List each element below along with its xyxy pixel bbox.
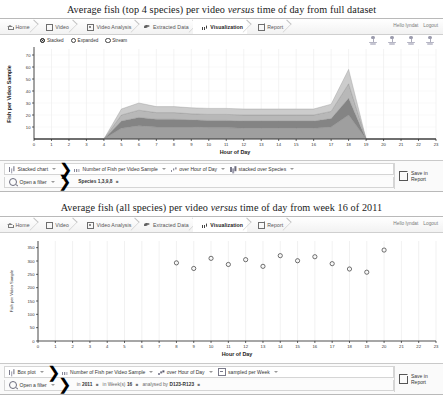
chart-area-2: 0501001502002503003500123456789101112131… <box>0 233 443 363</box>
svg-text:14: 14 <box>278 344 283 349</box>
tool-icon-2[interactable] <box>387 36 397 48</box>
nav-item-report[interactable]: Report <box>247 19 287 34</box>
chevron-down-icon <box>149 371 153 373</box>
control-row-filters-1: Open a filter ❯ Species 1,3,9,8 ■ <box>4 177 394 188</box>
bars-icon <box>62 369 68 375</box>
open-filter-button-2[interactable]: Open a filter <box>7 380 58 390</box>
bars-icon <box>9 369 15 375</box>
svg-text:13: 13 <box>261 344 266 349</box>
video-analysis-icon <box>87 222 94 229</box>
bar-chart-icon <box>202 222 208 228</box>
svg-text:17: 17 <box>330 344 335 349</box>
filter-chip-group-2: in 2011 ■ in Week(s) 16 ■ analysed by <box>71 380 207 390</box>
svg-text:23: 23 <box>434 142 439 147</box>
select-chart-type-1[interactable]: Stacked chart <box>7 164 59 174</box>
logout-link[interactable]: Logout <box>423 23 438 28</box>
nav2-item-home[interactable]: Home <box>4 217 34 232</box>
svg-text:20: 20 <box>381 142 386 147</box>
tool-icon-4[interactable] <box>425 36 435 48</box>
app-window-1: Home Video Video Analysis Extracted Data… <box>0 18 443 192</box>
svg-text:300: 300 <box>28 259 36 264</box>
svg-text:16: 16 <box>313 344 318 349</box>
svg-text:40: 40 <box>26 89 31 94</box>
select-measure-1[interactable]: Number of Fish per Video Sample <box>72 164 169 174</box>
radio-option-stream[interactable]: Stream <box>105 38 127 43</box>
select-value-groupby: over Hour of Day <box>179 166 217 172</box>
breadcrumb-nav-2: Home Video Video Analysis Extracted Data… <box>0 217 443 233</box>
nav2-item-report[interactable]: Report <box>247 217 287 232</box>
svg-text:200: 200 <box>28 285 36 290</box>
close-icon[interactable]: ■ <box>198 382 201 387</box>
chip-analysed-by[interactable]: analysed by D123-R123 ■ <box>142 382 200 387</box>
radio-icon-expanded <box>71 38 76 43</box>
tool-icon-1[interactable] <box>368 36 378 48</box>
tool-icon-3[interactable] <box>406 36 416 48</box>
svg-text:16: 16 <box>311 142 316 147</box>
save-label-line2: Report <box>411 176 428 182</box>
svg-text:10: 10 <box>26 125 31 130</box>
nav-item-visualization[interactable]: Visualization <box>193 19 247 34</box>
radio-option-expanded[interactable]: Expanded <box>71 38 99 43</box>
svg-text:9: 9 <box>190 142 193 147</box>
nav-item-extracted-data[interactable]: Extracted Data <box>135 19 192 34</box>
nav2-label-report: Report <box>267 222 283 228</box>
bars-icon <box>74 166 80 172</box>
select-chart-type-2[interactable]: Box plot <box>7 367 47 377</box>
save-in-report-button-2[interactable]: Save in Report <box>394 366 439 392</box>
svg-text:4: 4 <box>103 142 106 147</box>
save-in-report-button-1[interactable]: Save in Report <box>394 163 439 189</box>
svg-text:150: 150 <box>28 299 36 304</box>
nav2-item-extracted-data[interactable]: Extracted Data <box>135 217 192 232</box>
select2-value-sampleby: sampled per Week <box>228 369 270 375</box>
save2-label-line2: Report <box>411 379 428 385</box>
chip-week[interactable]: in Week(s) 16 ■ <box>103 382 139 387</box>
chip-value-species: Species 1,3,9,8 <box>78 179 112 184</box>
open-filter-button-1[interactable]: Open a filter <box>7 177 58 187</box>
nav2-item-video[interactable]: Video <box>34 217 73 232</box>
select-stackby-1[interactable]: stacked over Species <box>228 164 297 174</box>
svg-text:20: 20 <box>26 113 31 118</box>
stacked-area-chart: 1020304050607001234567891011121314151617… <box>0 35 443 160</box>
chip-year[interactable]: in 2011 ■ <box>77 382 99 387</box>
nav2-item-video-analysis[interactable]: Video Analysis <box>73 217 136 232</box>
control-fields-2: Box plot ❯ Number of Fish per Video Samp… <box>4 366 394 392</box>
chart-toolbar-1 <box>368 36 435 48</box>
svg-text:0: 0 <box>32 339 35 344</box>
nav-item-video[interactable]: Video <box>34 19 73 34</box>
nav2-label-visualization: Visualization <box>210 222 243 228</box>
chip-value-week: 16 <box>127 382 132 387</box>
nav-item-home[interactable]: Home <box>4 19 34 34</box>
app-window-2: Home Video Video Analysis Extracted Data… <box>0 216 443 395</box>
select-measure-2[interactable]: Number of Fish per Video Sample <box>60 367 157 377</box>
close-icon[interactable]: ■ <box>116 179 119 184</box>
filter-chip-species[interactable]: Species 1,3,9,8 ■ <box>71 177 126 187</box>
chevron-down-icon <box>40 371 44 373</box>
svg-text:5: 5 <box>120 142 123 147</box>
radio-label-stream: Stream <box>112 38 127 43</box>
select-groupby-1[interactable]: over Hour of Day <box>169 164 228 174</box>
nav-item-video-analysis[interactable]: Video Analysis <box>73 19 136 34</box>
nav2-item-visualization[interactable]: Visualization <box>193 217 247 232</box>
select-sampleby-2[interactable]: sampled per Week <box>216 367 281 377</box>
separator-4: ❯ <box>58 375 71 394</box>
control-fields-1: Stacked chart ❯ Number of Fish per Video… <box>4 163 394 189</box>
svg-text:10: 10 <box>206 142 211 147</box>
svg-text:21: 21 <box>399 142 404 147</box>
svg-text:100: 100 <box>28 312 36 317</box>
chevron-down-icon <box>274 371 278 373</box>
chip-pre-analysed: analysed by <box>142 382 168 387</box>
home-icon <box>7 24 13 30</box>
logout-link-2[interactable]: Logout <box>423 221 438 226</box>
svg-text:50: 50 <box>26 77 31 82</box>
figure-caption-2: Average fish (all species) per video ver… <box>0 198 443 216</box>
select2-value-measure: Number of Fish per Video Sample <box>70 369 145 375</box>
select-groupby-2[interactable]: over Hour of Day <box>156 367 215 377</box>
video-analysis-icon <box>87 24 94 31</box>
svg-text:0: 0 <box>37 344 40 349</box>
control-bar-2: Box plot ❯ Number of Fish per Video Samp… <box>0 363 443 394</box>
svg-text:21: 21 <box>399 344 404 349</box>
close-icon[interactable]: ■ <box>96 382 99 387</box>
radio-option-stacked[interactable]: Stacked <box>40 38 64 43</box>
close-icon[interactable]: ■ <box>136 382 139 387</box>
svg-text:2: 2 <box>71 344 74 349</box>
